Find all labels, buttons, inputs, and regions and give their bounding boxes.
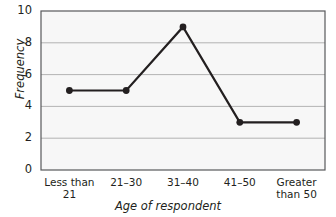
data-point [66, 87, 73, 94]
data-point [123, 87, 130, 94]
data-point [293, 119, 300, 126]
data-point [236, 119, 243, 126]
y-axis-tick-label: 0 [6, 164, 32, 176]
y-axis-tick-label: 10 [6, 5, 32, 17]
x-axis-tick-label-line: Greater [260, 176, 334, 188]
line-chart: 0246810 Less than2121–3031–4041–50Greate… [0, 0, 336, 217]
x-axis-tick-label: Greaterthan 50 [260, 176, 334, 201]
y-axis-tick-label: 2 [6, 132, 32, 144]
data-point [180, 24, 187, 31]
x-axis-title: Age of respondent [0, 199, 336, 213]
y-axis-title: Frequency [13, 21, 27, 117]
